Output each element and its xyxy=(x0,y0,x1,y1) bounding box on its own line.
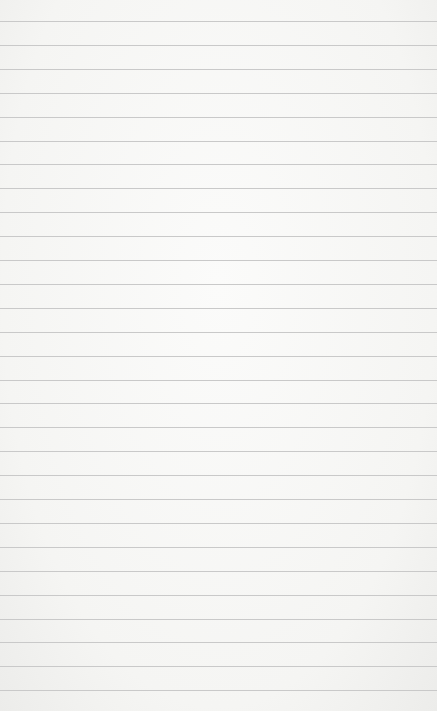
ruled-line xyxy=(0,403,437,404)
ruled-line xyxy=(0,21,437,22)
ruled-line xyxy=(0,451,437,452)
ruled-line xyxy=(0,690,437,691)
ruled-line xyxy=(0,212,437,213)
ruled-line xyxy=(0,427,437,428)
ruled-line xyxy=(0,45,437,46)
ruled-line xyxy=(0,93,437,94)
ruled-line xyxy=(0,619,437,620)
ruled-line xyxy=(0,666,437,667)
ruled-line xyxy=(0,571,437,572)
ruled-line xyxy=(0,69,437,70)
ruled-line xyxy=(0,356,437,357)
ruled-line xyxy=(0,308,437,309)
ruled-line xyxy=(0,236,437,237)
ruled-line xyxy=(0,523,437,524)
ruled-line xyxy=(0,595,437,596)
ruled-line xyxy=(0,475,437,476)
ruled-line xyxy=(0,188,437,189)
ruled-line xyxy=(0,499,437,500)
ruled-line xyxy=(0,332,437,333)
ruled-line xyxy=(0,141,437,142)
ruled-line xyxy=(0,117,437,118)
ruled-line xyxy=(0,380,437,381)
ruled-line xyxy=(0,642,437,643)
lined-paper xyxy=(0,0,437,711)
ruled-line xyxy=(0,164,437,165)
ruled-line xyxy=(0,284,437,285)
ruled-line xyxy=(0,547,437,548)
ruled-line xyxy=(0,260,437,261)
